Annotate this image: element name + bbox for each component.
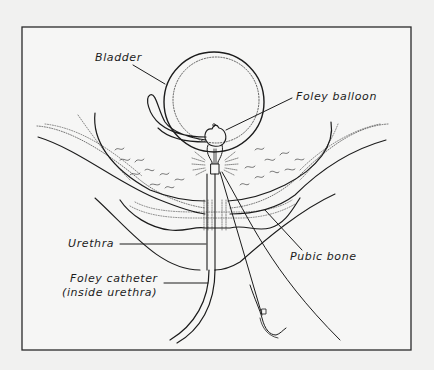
label-foley-balloon: Foley balloon	[296, 91, 377, 103]
label-foley-catheter-note: (inside urethra)	[62, 287, 157, 299]
label-bladder: Bladder	[95, 52, 142, 64]
diagram-frame	[22, 27, 411, 350]
label-foley-catheter: Foley catheter	[70, 273, 158, 285]
foley-catheter-diagram	[0, 0, 434, 370]
label-urethra: Urethra	[68, 238, 114, 250]
label-pubic-bone: Pubic bone	[290, 251, 357, 263]
